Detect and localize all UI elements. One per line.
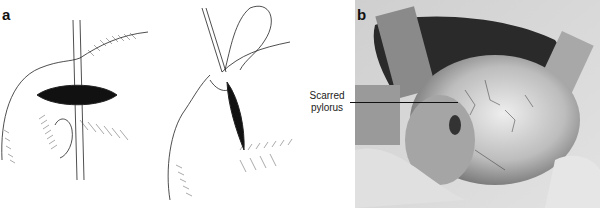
panel-b: b	[355, 0, 600, 208]
annotation-line2: pylorus	[304, 102, 350, 114]
surgical-illustration	[355, 0, 600, 208]
annotation-scarred-pylorus: Scarred pylorus	[304, 90, 350, 114]
annotation-line1: Scarred	[304, 90, 350, 102]
annotation-leader-line	[350, 102, 458, 103]
panel-label-a: a	[2, 6, 10, 23]
panel-label-b: b	[357, 6, 366, 23]
panel-a: a	[0, 0, 300, 208]
incision-drawings	[0, 0, 300, 208]
